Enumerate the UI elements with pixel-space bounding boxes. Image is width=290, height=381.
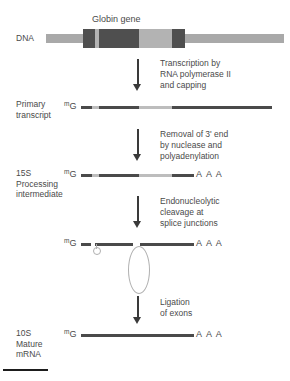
row-label-processing-intermediate: 15S Processing intermediate (16, 168, 63, 200)
bottom-rule (3, 369, 48, 371)
cap-label-spliced-lariat: mG (64, 237, 76, 248)
step-text-ligation: Ligation of exons (160, 297, 192, 319)
cap-label-mature-mrna: mG (64, 328, 76, 339)
intermediate-seg-exon-2 (99, 174, 139, 177)
dna-intron-block-2 (139, 29, 172, 48)
cap-base: G (69, 101, 76, 111)
spliced-seg-exon-3 (140, 243, 194, 246)
spliced-seg-exon-1 (81, 243, 91, 246)
transcript-seg-intron-1 (92, 106, 99, 109)
cap-base: G (69, 329, 76, 339)
cap-base: G (69, 238, 76, 248)
cap-base: G (69, 169, 76, 179)
cap-label-primary-transcript: mG (64, 100, 76, 111)
spliced-seg-exon-2 (95, 243, 133, 246)
rna-processing-diagram: Globin gene DNA Transcription by RNA pol… (0, 0, 290, 381)
arrow-shaft (137, 196, 139, 222)
arrow-head (133, 84, 141, 91)
transcript-seg-exon-2 (99, 106, 139, 109)
arrow-shaft (137, 59, 139, 85)
arrow-head (133, 154, 141, 161)
polya-tail-spliced-lariat: A A A (196, 238, 223, 248)
cap-label-processing-intermediate: mG (64, 168, 76, 179)
transcript-seg-exon-1 (81, 106, 92, 109)
arrow-shaft (137, 296, 139, 318)
lariat-loop (128, 246, 150, 294)
row-label-dna: DNA (16, 33, 34, 44)
transcript-seg-intron-2 (139, 106, 172, 109)
step-text-endonucleolytic-cleavage: Endonucleolytic cleavage at splice junct… (160, 196, 220, 229)
branch-point-dot (93, 247, 101, 255)
step-text-transcription: Transcription by RNA polymerase II and c… (160, 58, 231, 91)
row-label-mature-mrna: 10S Mature mRNA (16, 328, 42, 360)
mature-mrna-strand (81, 334, 194, 337)
dna-intron-stripe-1 (95, 29, 99, 48)
gene-title: Globin gene (92, 14, 141, 24)
intermediate-seg-intron-1 (92, 174, 99, 177)
polya-tail-processing-intermediate: A A A (196, 169, 223, 179)
arrow-head (133, 221, 141, 228)
arrow-head (133, 317, 141, 324)
intermediate-seg-exon-3 (172, 174, 194, 177)
polya-tail-mature-mrna: A A A (196, 329, 223, 339)
step-text-cleavage-polyadenylation: Removal of 3' end by nuclease and polyad… (160, 129, 228, 162)
intermediate-seg-intron-2 (139, 174, 172, 177)
intermediate-seg-exon-1 (81, 174, 92, 177)
row-label-primary-transcript: Primary transcript (16, 99, 51, 120)
transcript-seg-exon-3 (172, 106, 272, 109)
arrow-shaft (137, 129, 139, 155)
